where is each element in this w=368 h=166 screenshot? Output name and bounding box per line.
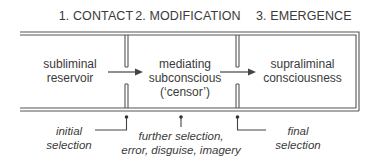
- annotation-final-line1: final: [268, 124, 328, 138]
- box-mediating-line1: mediating: [140, 57, 230, 71]
- stage-heading-modification: 2. MODIFICATION: [134, 9, 242, 23]
- box-mediating-line3: (‘censor’): [140, 85, 230, 99]
- box-supraliminal-line1: supraliminal: [255, 57, 350, 71]
- divider-1-bottom: [125, 84, 128, 108]
- box-subliminal-line1: subliminal: [30, 57, 110, 71]
- annotation-further-line1: further selection,: [121, 129, 241, 143]
- box-supraliminal-consciousness: supraliminal consciousness: [255, 57, 350, 85]
- annotation-initial-selection: initial selection: [44, 124, 94, 152]
- dot-further: [179, 115, 183, 119]
- dot-final: [236, 115, 240, 119]
- leader-final: [238, 118, 267, 130]
- box-supraliminal-line2: consciousness: [255, 71, 350, 85]
- divider-2-top: [236, 35, 239, 67]
- stage-heading-contact: 1. CONTACT: [56, 9, 136, 23]
- box-subliminal-line2: reservoir: [30, 71, 110, 85]
- annotation-final-selection: final selection: [268, 124, 328, 152]
- divider-1-top: [125, 35, 128, 67]
- annotation-further-selection: further selection, error, disguise, imag…: [121, 129, 241, 157]
- dot-initial: [125, 115, 129, 119]
- box-subliminal-reservoir: subliminal reservoir: [30, 57, 110, 85]
- annotation-initial-line2: selection: [44, 138, 94, 152]
- annotation-further-line2: error, disguise, imagery: [121, 143, 241, 157]
- box-mediating-subconscious: mediating subconscious (‘censor’): [140, 57, 230, 99]
- leader-dots: [125, 115, 240, 119]
- divider-2-bottom: [236, 84, 239, 108]
- box-mediating-line2: subconscious: [140, 71, 230, 85]
- stage-heading-emergence: 3. EMERGENCE: [256, 9, 348, 23]
- annotation-initial-line1: initial: [44, 124, 94, 138]
- annotation-final-line2: selection: [268, 138, 328, 152]
